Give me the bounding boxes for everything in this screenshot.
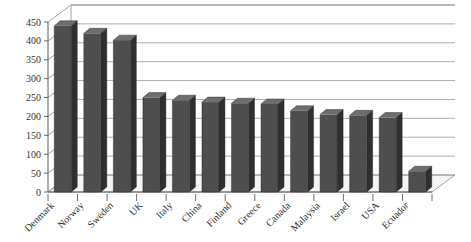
chart-canvas: 050100150200250300350400450 DenmarkNorwa… bbox=[0, 0, 471, 242]
x-axis-tick-label: Israel bbox=[328, 199, 352, 223]
y-axis-tick-label: 50 bbox=[31, 168, 41, 179]
y-axis-tick-label: 150 bbox=[26, 130, 41, 141]
bar-chart: 050100150200250300350400450 DenmarkNorwa… bbox=[0, 0, 471, 242]
bar bbox=[202, 97, 225, 192]
x-axis-tick-label: Italy bbox=[154, 200, 175, 221]
bar bbox=[261, 99, 284, 192]
x-axis-tick-label: Denmark bbox=[22, 200, 56, 234]
bar bbox=[409, 166, 432, 192]
y-axis-tick-label: 400 bbox=[26, 35, 41, 46]
x-axis-tick-label: Finland bbox=[204, 200, 233, 229]
x-axis-tick-label: Greece bbox=[235, 199, 263, 227]
bar bbox=[172, 95, 195, 192]
y-axis-ticks: 050100150200250300350400450 bbox=[26, 17, 48, 198]
y-axis-tick-label: 450 bbox=[26, 17, 41, 28]
bar bbox=[84, 28, 107, 192]
y-axis-tick-label: 200 bbox=[26, 111, 41, 122]
bar bbox=[350, 110, 373, 192]
y-axis-tick-label: 300 bbox=[26, 73, 41, 84]
x-axis-labels: DenmarkNorwaySwedenUKItalyChinaFinlandGr… bbox=[22, 199, 411, 234]
bar bbox=[232, 98, 255, 192]
bar bbox=[143, 93, 166, 192]
y-axis-tick-label: 100 bbox=[26, 149, 41, 160]
bar bbox=[379, 113, 402, 192]
x-axis-tick-label: Ecuador bbox=[379, 199, 411, 231]
x-axis-tick-label: Norway bbox=[55, 200, 86, 231]
x-axis-tick-label: UK bbox=[127, 199, 146, 218]
bar bbox=[54, 21, 77, 192]
y-axis-tick-label: 0 bbox=[36, 187, 41, 198]
x-axis-tick-label: USA bbox=[359, 199, 381, 221]
bar bbox=[320, 110, 343, 192]
x-axis-tick-label: Malaysia bbox=[288, 199, 322, 233]
x-axis-tick-marks bbox=[48, 194, 432, 201]
y-axis-tick-label: 250 bbox=[26, 92, 41, 103]
bar bbox=[291, 106, 314, 192]
bar bbox=[113, 35, 136, 192]
y-axis-tick-label: 350 bbox=[26, 54, 41, 65]
x-axis-tick-label: China bbox=[179, 199, 204, 224]
x-axis-tick-label: Sweden bbox=[85, 200, 115, 230]
